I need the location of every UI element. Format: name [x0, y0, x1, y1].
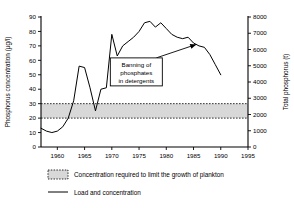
y-tick-label: 20 [29, 114, 36, 121]
y-tick-label: 50 [29, 71, 36, 78]
y2-tick-label: 3000 [253, 94, 267, 101]
y2-tick-label: 2000 [253, 111, 267, 118]
x-tick-label: 1980 [159, 152, 173, 159]
legend-label-series: Load and concentration [74, 189, 141, 196]
x-tick-label: 1965 [78, 152, 92, 159]
annotation-line-3: in detergents [118, 77, 154, 84]
y-tick-label: 10 [29, 129, 36, 136]
x-tick-label: 1990 [214, 152, 228, 159]
annotation-line-1: Banning of [122, 61, 152, 68]
y2-axis-title: Total phosphorus (t) [282, 54, 290, 110]
legend-label-threshold: Concentration required to limit the grow… [74, 171, 224, 179]
annotation-line-2: phosphates [120, 69, 152, 76]
y2-tick-label: 7000 [253, 29, 267, 36]
chart-figure: 0102030405060708090 01000200030004000500… [0, 0, 294, 208]
y2-tick-label: 5000 [253, 62, 267, 69]
y2-tick-label: 6000 [253, 46, 267, 53]
y-tick-label: 0 [33, 143, 37, 150]
phosphorus-line-chart: 0102030405060708090 01000200030004000500… [0, 0, 294, 208]
x-tick-label: 1970 [105, 152, 119, 159]
x-tick-label: 1985 [187, 152, 201, 159]
x-tick-label: 1975 [132, 152, 146, 159]
y2-tick-label: 4000 [253, 78, 267, 85]
y-tick-label: 70 [29, 42, 36, 49]
x-tick-label: 1995 [241, 152, 255, 159]
y-tick-label: 30 [29, 100, 36, 107]
x-tick-label: 1960 [50, 152, 64, 159]
y-axis-title: Phosphorus concentration (µg/l) [4, 37, 12, 128]
y-tick-label: 90 [29, 13, 36, 20]
y-tick-label: 60 [29, 57, 36, 64]
y2-tick-label: 0 [253, 143, 257, 150]
legend-band-swatch [48, 170, 68, 179]
y2-tick-label: 8000 [253, 13, 267, 20]
y-tick-label: 80 [29, 28, 36, 35]
y-tick-label: 40 [29, 85, 36, 92]
y2-tick-label: 1000 [253, 127, 267, 134]
